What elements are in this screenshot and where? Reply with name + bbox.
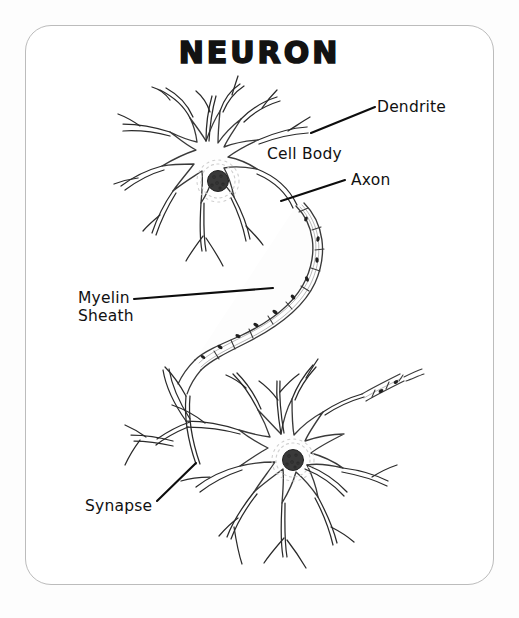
leader-line-synapse <box>157 463 196 501</box>
label-myelin-sheath: Myelin Sheath <box>78 289 156 325</box>
screenshot-root: NEURON <box>0 0 519 618</box>
label-synapse: Synapse <box>85 497 152 515</box>
lower-axon-segment <box>362 369 424 401</box>
label-axon: Axon <box>351 171 390 189</box>
leader-line-axon <box>281 180 345 201</box>
leader-line-dendrite <box>311 107 375 133</box>
label-myelin-sheath-line2: Sheath <box>78 307 134 325</box>
label-dendrite: Dendrite <box>377 98 446 116</box>
lower-neuron <box>125 359 397 568</box>
label-cell-body: Cell Body <box>267 145 342 163</box>
label-myelin-sheath-line1: Myelin <box>78 289 130 307</box>
